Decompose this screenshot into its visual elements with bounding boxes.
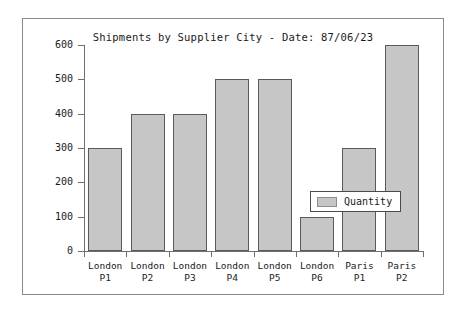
bar-london-p2[interactable] bbox=[131, 114, 165, 251]
chart-legend: Quantity bbox=[310, 191, 401, 212]
x-label-paris-p1: ParisP1 bbox=[338, 260, 380, 284]
x-label-london-p4: LondonP4 bbox=[211, 260, 253, 284]
x-tick-2 bbox=[169, 252, 170, 257]
x-label-part: P5 bbox=[254, 272, 296, 284]
x-label-london-p2: LondonP2 bbox=[126, 260, 168, 284]
x-tick-4 bbox=[254, 252, 255, 257]
y-tick-label-0: 0 bbox=[67, 245, 73, 256]
x-label-city: Paris bbox=[388, 260, 417, 271]
y-tick-label-600: 600 bbox=[55, 39, 73, 50]
legend-label-quantity: Quantity bbox=[344, 196, 392, 207]
x-label-city: London bbox=[300, 260, 334, 271]
x-label-part: P6 bbox=[296, 272, 338, 284]
bar-paris-p2[interactable] bbox=[385, 45, 419, 251]
chart-title: Shipments by Supplier City - Date: 87/06… bbox=[23, 31, 443, 43]
x-label-london-p5: LondonP5 bbox=[254, 260, 296, 284]
y-tick-label-400: 400 bbox=[55, 108, 73, 119]
x-tick-6 bbox=[338, 252, 339, 257]
plot-area bbox=[84, 45, 423, 251]
bar-london-p5[interactable] bbox=[258, 79, 292, 251]
x-label-part: P1 bbox=[84, 272, 126, 284]
x-label-london-p1: LondonP1 bbox=[84, 260, 126, 284]
bar-london-p1[interactable] bbox=[88, 148, 122, 251]
x-label-london-p3: LondonP3 bbox=[169, 260, 211, 284]
x-label-city: London bbox=[130, 260, 164, 271]
y-tick-label-200: 200 bbox=[55, 176, 73, 187]
y-tick-label-300: 300 bbox=[55, 142, 73, 153]
x-tick-0 bbox=[84, 252, 85, 257]
x-tick-1 bbox=[126, 252, 127, 257]
x-label-part: P2 bbox=[381, 272, 423, 284]
y-tick-label-500: 500 bbox=[55, 73, 73, 84]
x-label-city: London bbox=[258, 260, 292, 271]
x-label-city: London bbox=[173, 260, 207, 271]
bar-london-p4[interactable] bbox=[215, 79, 249, 251]
x-label-london-p6: LondonP6 bbox=[296, 260, 338, 284]
x-label-part: P3 bbox=[169, 272, 211, 284]
x-label-paris-p2: ParisP2 bbox=[381, 260, 423, 284]
chart-frame: Shipments by Supplier City - Date: 87/06… bbox=[22, 18, 444, 295]
x-label-city: Paris bbox=[345, 260, 374, 271]
x-label-city: London bbox=[215, 260, 249, 271]
bar-london-p6[interactable] bbox=[300, 217, 334, 251]
x-tick-5 bbox=[296, 252, 297, 257]
y-tick-label-100: 100 bbox=[55, 211, 73, 222]
x-label-part: P1 bbox=[338, 272, 380, 284]
legend-swatch-quantity bbox=[317, 197, 337, 207]
x-tick-8 bbox=[423, 252, 424, 257]
x-label-city: London bbox=[88, 260, 122, 271]
x-tick-3 bbox=[211, 252, 212, 257]
x-tick-7 bbox=[381, 252, 382, 257]
bar-london-p3[interactable] bbox=[173, 114, 207, 251]
x-label-part: P4 bbox=[211, 272, 253, 284]
x-label-part: P2 bbox=[126, 272, 168, 284]
